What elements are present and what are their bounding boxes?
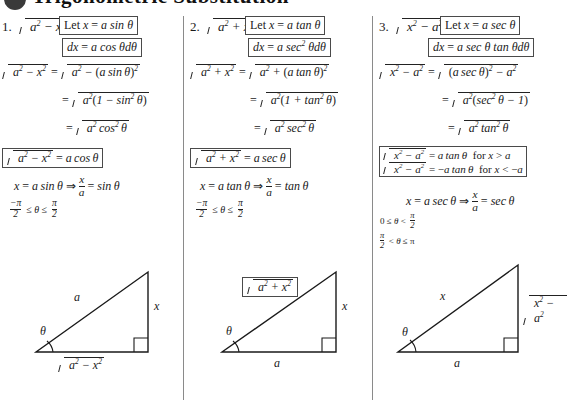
case-3-opposite-label: x2 − a2	[523, 295, 567, 326]
case-1-number: 1.	[2, 19, 12, 34]
case-3-step-2: = a2(sec2 θ − 1)	[442, 92, 530, 108]
case-2-let-box: Let x = a tan θ	[245, 16, 325, 35]
case-2-domain: −π2 ≤ θ ≤ π2	[196, 200, 243, 221]
case-3-triangle: x x2 − a2 θ a	[376, 229, 567, 399]
case-2-adjacent-label: a	[274, 356, 280, 371]
case-1-header: 1. a2 − x2	[2, 18, 68, 35]
case-2-step-2: = a2(1 + tan2 θ)	[250, 92, 338, 108]
case-3-number: 3.	[379, 19, 389, 34]
bullet-dot-icon	[4, 0, 26, 10]
case-1-dx-box: dx = a cos θdθ	[62, 38, 142, 57]
case-1-inverse: x = a sin θ ⇒ xa = sin θ	[14, 175, 120, 200]
case-1-domain: −π2 ≤ θ ≤ π2	[10, 200, 57, 221]
case-1-adjacent-label: a2 − x2	[58, 357, 104, 373]
columns-container: 1. a2 − x2 Let x = a sin θ dx = a cos θd…	[0, 14, 567, 402]
case-3-inverse: x = a sec θ ⇒ xa = sec θ	[406, 190, 514, 215]
case-1-step-3: = a2 cos2 θ	[66, 120, 129, 136]
case-2-dx-box: dx = a sec2 θdθ	[248, 38, 331, 57]
case-3-result-line-1: x2 − a2 = a tan θ for x > a	[383, 148, 523, 161]
case-2-triangle: a2 + x2 x θ a	[188, 224, 370, 396]
case-1-step-1: a2 − x2 = a2 − (a sin θ)2	[2, 64, 140, 80]
case-3-adjacent-label: a	[454, 356, 460, 371]
case-3-step-1: x2 − a2 = (a sec θ)2 − a2	[379, 64, 518, 80]
case-2-number: 2.	[190, 19, 200, 34]
column-divider-2	[372, 16, 373, 400]
column-divider-1	[183, 16, 184, 400]
case-column-2: 2. a2 + x2 Let x = a tan θ dx = a sec2 θ…	[188, 14, 370, 402]
case-2-angle-label: θ	[226, 324, 232, 339]
case-3-dx-box: dx = a sec θ tan θdθ	[428, 38, 534, 57]
case-2-inverse: x = a tan θ ⇒ xa = tan θ	[200, 175, 308, 200]
case-2-opposite-label: x	[342, 299, 347, 314]
case-1-hypotenuse-label: a	[74, 290, 80, 305]
case-3-header: 3. x2 − a2	[379, 18, 445, 35]
page-heading: Trigonometric Substitution	[0, 0, 567, 14]
worksheet-page: Trigonometric Substitution 1. a2 − x2 Le…	[0, 0, 567, 402]
case-2-step-3: = a2 sec2 θ	[254, 120, 316, 136]
case-column-3: 3. x2 − a2 Let x = a sec θ dx = a sec θ …	[376, 14, 567, 402]
case-1-step-2: = a2(1 − sin2 θ)	[62, 92, 149, 108]
case-3-let-box: Let x = a sec θ	[440, 16, 520, 35]
case-2-step-1: a2 + x2 = a2 + (a tan θ)2	[190, 64, 329, 80]
case-3-result-line-2: x2 − a2 = −a tan θ for x < −a	[383, 162, 523, 175]
case-3-angle-label: θ	[402, 325, 408, 340]
case-1-opposite-label: x	[154, 299, 159, 314]
case-1-triangle: a x θ a2 − x2	[0, 224, 182, 396]
case-2-hypotenuse-label: a2 + x2	[242, 277, 298, 297]
case-3-hypotenuse-label: x	[440, 289, 445, 304]
case-2-result-box: a2 + x2 = a sec θ	[190, 148, 291, 168]
case-1-angle-label: θ	[40, 324, 46, 339]
case-1-result-box: a2 − x2 = a cos θ	[2, 148, 103, 168]
case-column-1: 1. a2 − x2 Let x = a sin θ dx = a cos θd…	[0, 14, 182, 402]
case-3-result-box: x2 − a2 = a tan θ for x > a x2 − a2 = −a…	[379, 146, 527, 177]
case-1-let-box: Let x = a sin θ	[59, 16, 138, 35]
page-title: Trigonometric Substitution	[32, 0, 289, 9]
case-3-step-3: = a2 tan2 θ	[448, 120, 510, 136]
